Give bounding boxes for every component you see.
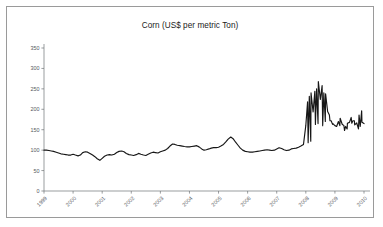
y-tick-label: 200 bbox=[31, 106, 40, 112]
y-tick-label: 50 bbox=[34, 168, 40, 174]
x-tick-label: 2003 bbox=[152, 195, 165, 208]
x-tick-label: 2005 bbox=[210, 195, 223, 208]
y-tick-label: 250 bbox=[31, 86, 40, 92]
y-tick-label: 150 bbox=[31, 127, 40, 133]
x-tick-label: 2009 bbox=[326, 195, 339, 208]
y-tick-label: 300 bbox=[31, 65, 40, 71]
x-tick-label: 2002 bbox=[123, 195, 136, 208]
chart-plot-area: 050100150200250300350 199920002001200220… bbox=[7, 7, 375, 219]
x-tick-label: 2006 bbox=[239, 195, 252, 208]
x-tick-label: 1999 bbox=[35, 195, 48, 208]
y-tick-label: 350 bbox=[31, 45, 40, 51]
x-tick-label: 2010 bbox=[355, 195, 368, 208]
y-tick-label: 0 bbox=[37, 188, 40, 194]
x-tick-label: 2008 bbox=[297, 195, 310, 208]
x-tick-label: 2001 bbox=[94, 195, 107, 208]
x-tick-label: 2004 bbox=[181, 195, 194, 208]
price-line-series bbox=[44, 82, 364, 161]
x-tick-label: 2000 bbox=[65, 195, 78, 208]
x-axis: 1999200020012002200320042005200620072008… bbox=[35, 191, 370, 208]
x-tick-label: 2007 bbox=[268, 195, 281, 208]
chart-frame: Corn (US$ per metric Ton) 05010015020025… bbox=[6, 6, 374, 218]
y-axis: 050100150200250300350 bbox=[31, 44, 45, 194]
y-tick-label: 100 bbox=[31, 147, 40, 153]
